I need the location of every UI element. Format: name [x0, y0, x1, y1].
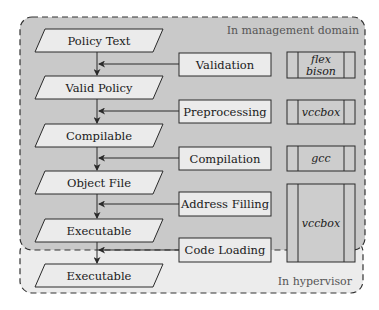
artifact-valid-policy: Valid Policy	[35, 76, 163, 99]
compilation-pipeline-diagram: In hypervisor In management domain Polic…	[0, 0, 379, 310]
artifact-object-file: Object File	[35, 171, 163, 194]
svg-text:Executable: Executable	[67, 224, 132, 238]
svg-text:Compilable: Compilable	[66, 129, 132, 143]
artifact-executable-hypervisor: Executable	[35, 264, 163, 287]
process-preprocessing: Preprocessing	[179, 100, 271, 123]
process-address-filling: Address Filling	[179, 192, 271, 216]
svg-text:vccbox: vccbox	[302, 217, 341, 230]
process-validation: Validation	[179, 53, 271, 76]
tool-vccbox-loading: vccbox	[287, 184, 355, 262]
svg-text:Preprocessing: Preprocessing	[183, 105, 267, 119]
svg-text:Executable: Executable	[67, 269, 132, 283]
svg-text:bison: bison	[306, 65, 336, 78]
svg-text:Validation: Validation	[195, 58, 255, 72]
svg-text:vccbox: vccbox	[302, 106, 341, 119]
svg-text:Compilation: Compilation	[190, 152, 261, 166]
tool-flex-bison: flex bison	[287, 52, 355, 78]
artifact-policy-text: Policy Text	[35, 29, 163, 52]
artifact-executable-management: Executable	[35, 219, 163, 242]
svg-text:Valid Policy: Valid Policy	[65, 81, 133, 95]
tool-vccbox-preprocessing: vccbox	[287, 100, 355, 124]
svg-text:Address Filling: Address Filling	[180, 197, 270, 211]
tool-gcc: gcc	[287, 146, 355, 171]
process-code-loading: Code Loading	[179, 238, 271, 262]
svg-text:Policy Text: Policy Text	[68, 34, 131, 48]
hypervisor-domain-label: In hypervisor	[278, 275, 353, 288]
svg-text:Code Loading: Code Loading	[185, 243, 266, 257]
management-domain-label: In management domain	[227, 24, 359, 37]
artifact-compilable: Compilable	[35, 124, 163, 147]
svg-text:Object File: Object File	[67, 176, 131, 190]
svg-text:gcc: gcc	[311, 152, 330, 165]
process-compilation: Compilation	[179, 147, 271, 170]
